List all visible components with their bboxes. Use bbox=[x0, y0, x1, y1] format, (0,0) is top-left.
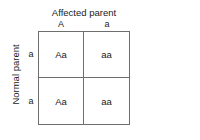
column-header-allele-2: a bbox=[84, 19, 130, 30]
punnett-square-diagram: Affected parent A a Normal parent a a Aa… bbox=[0, 0, 200, 140]
row-axis-title: Normal parent bbox=[10, 29, 21, 121]
punnett-cell-row1-col2: aa bbox=[84, 32, 129, 78]
punnett-grid: Aa aa Aa aa bbox=[38, 31, 130, 125]
punnett-cell-row2-col2: aa bbox=[84, 78, 129, 124]
column-axis-title: Affected parent bbox=[38, 7, 130, 18]
row-header-allele-1: a bbox=[26, 49, 36, 60]
punnett-cell-row1-col1: Aa bbox=[39, 32, 84, 78]
column-header-allele-1: A bbox=[38, 19, 84, 30]
row-header-allele-2: a bbox=[26, 96, 36, 107]
punnett-cell-row2-col1: Aa bbox=[39, 78, 84, 124]
